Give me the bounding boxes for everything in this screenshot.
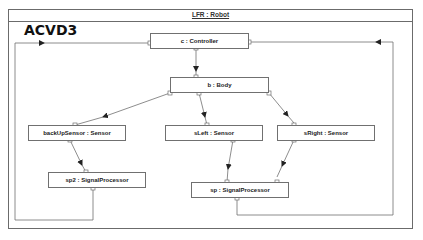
connector-backup-sp2 <box>70 140 82 165</box>
part-sright-sensor[interactable]: sRight : Sensor <box>277 125 375 141</box>
connector-body-sright <box>269 93 288 116</box>
part-sp-signal-processor[interactable]: sp : SignalProcessor <box>191 182 289 198</box>
connector-sright-sp <box>282 140 294 166</box>
connector-body-backup <box>103 93 170 117</box>
part-sleft-sensor[interactable]: sLeft : Sensor <box>165 125 263 141</box>
part-sp2-signal-processor[interactable]: sp2 : SignalProcessor <box>48 172 146 188</box>
connector-body-sright-tail <box>288 116 294 123</box>
part-backup-sensor[interactable]: backUpSensor : Sensor <box>28 125 126 141</box>
connector-body-sleft <box>199 93 205 117</box>
connector-sleft-sp <box>228 140 233 169</box>
part-controller[interactable]: c : Controller <box>150 33 249 49</box>
part-body[interactable]: b : Body <box>170 77 269 93</box>
connector-sright-sp-tail <box>277 166 282 177</box>
connector-body-backup-tail <box>75 117 103 125</box>
